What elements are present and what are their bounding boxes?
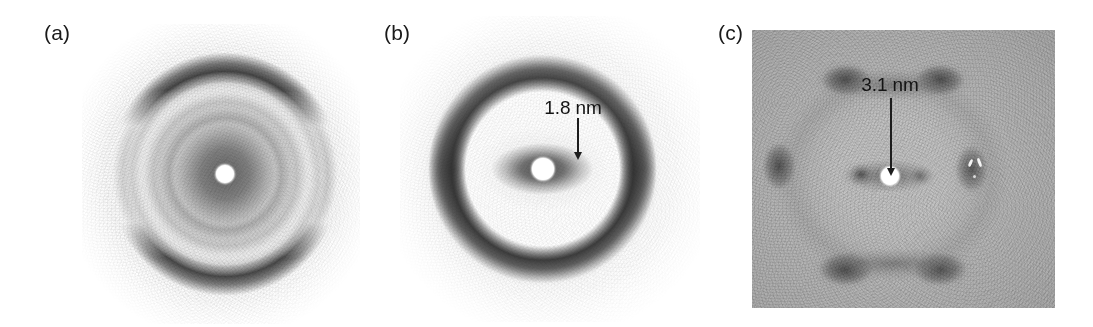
panel-b-beamstop — [532, 158, 554, 180]
panel-c-beamstop — [881, 167, 899, 185]
panel-b-diffraction-image — [400, 16, 700, 322]
panel-c-film-artifact-3 — [973, 175, 976, 178]
panel-c-label: (c) — [718, 22, 743, 43]
panel-c-hexagon-ring — [752, 30, 1055, 308]
panel-c-diffraction-image — [752, 30, 1055, 308]
panel-a-diffraction-image — [82, 24, 360, 324]
panel-a-label: (a) — [44, 22, 70, 43]
figure-container: (a) (b) — [0, 0, 1093, 327]
panel-b-label: (b) — [384, 22, 410, 43]
